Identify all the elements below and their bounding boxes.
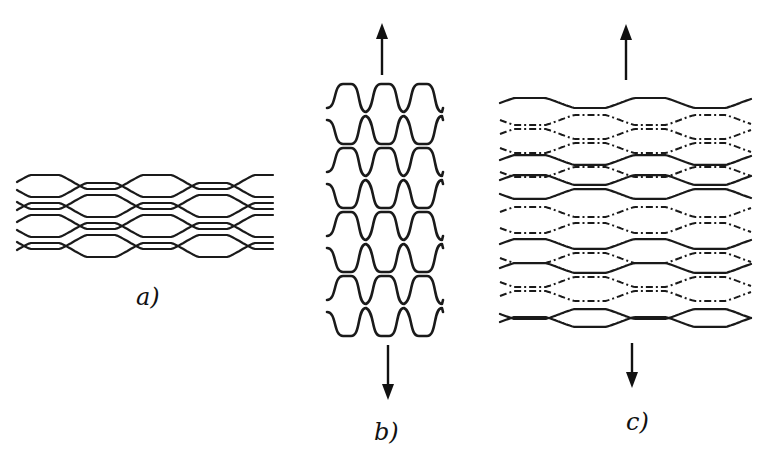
visible-yarn-line [500,239,751,249]
stretch-down-arrow [626,343,638,388]
stretch-up-arrow [376,23,388,75]
loop-row [327,212,443,240]
loop-row [327,116,443,144]
loop-row [327,276,443,304]
visible-yarn-line [500,155,751,165]
loop-row [327,308,443,336]
visible-yarn-line [500,175,751,185]
hidden-yarn-line [500,223,751,233]
panel-b-label: b) [374,420,399,444]
hidden-yarn-line [500,253,751,263]
visible-yarn-line [500,189,751,199]
visible-yarn-line [500,98,751,108]
knitted-fabric-diagram [0,0,766,461]
hidden-yarn-line [500,143,751,153]
panel-b-stretched-fabric [327,23,443,400]
panel-c-stretched-fabric-hidden-loops [500,24,751,388]
hidden-yarn-line [500,115,751,125]
stretch-down-arrow [382,345,394,400]
loop-row [327,84,443,112]
hidden-yarn-line [500,291,751,301]
hidden-yarn-line [500,277,751,287]
hidden-yarn-line [500,129,751,139]
panel-c-label: c) [626,410,649,434]
panel-a-label: a) [136,285,160,309]
stretch-up-arrow [620,24,632,80]
visible-yarn-line [500,263,751,273]
hidden-yarn-line [500,207,751,217]
loop-row [327,244,443,272]
loop-row [327,148,443,176]
panel-a-unstretched-fabric [17,175,273,257]
loop-row [327,180,443,208]
